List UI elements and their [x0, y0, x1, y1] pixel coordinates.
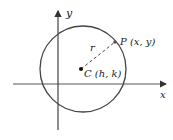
radius-line: [81, 42, 115, 69]
y-axis-label: y: [65, 7, 73, 20]
center-label: C (h, k): [84, 68, 122, 79]
center-point: [79, 67, 83, 71]
point-p: [113, 40, 117, 44]
radius-label: r: [90, 42, 96, 53]
circle-diagram: y x P (x, y) C (h, k) r: [0, 0, 173, 140]
x-axis-label: x: [160, 89, 166, 100]
point-p-label: P (x, y): [119, 36, 155, 47]
